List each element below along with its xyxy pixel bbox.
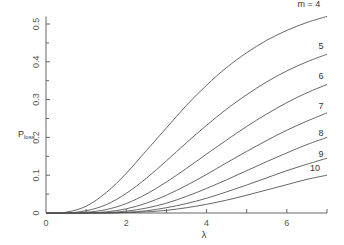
- x-tick-label: 4: [204, 218, 209, 228]
- x-tick-label: 2: [124, 218, 129, 228]
- curve-label: 7: [318, 101, 323, 111]
- curve-label: 5: [318, 41, 323, 51]
- line-chart: 00.10.20.30.40.50246 m = 45678910 Ploss …: [0, 0, 344, 245]
- curve-label: m = 4: [298, 0, 321, 9]
- y-tick-label: 0.5: [31, 18, 41, 31]
- x-tick-label: 6: [284, 218, 289, 228]
- curve-m-8: [46, 137, 327, 213]
- y-tick-label: 0.1: [31, 169, 41, 182]
- curve-label: 10: [310, 163, 320, 173]
- curve-label: 8: [318, 128, 323, 138]
- x-tick-label: 0: [43, 218, 48, 228]
- curve-labels: m = 45678910: [298, 0, 324, 173]
- y-tick-label: 0.3: [31, 93, 41, 106]
- curve-m-4: [46, 16, 327, 213]
- curve-m-10: [46, 175, 327, 213]
- curves: [46, 16, 327, 213]
- y-tick-label: 0: [31, 210, 41, 215]
- x-axis-title: λ: [202, 230, 207, 240]
- curve-m-6: [46, 84, 327, 213]
- axes: 00.10.20.30.40.50246: [31, 16, 327, 228]
- curve-label: 6: [318, 71, 323, 81]
- curve-m-5: [46, 54, 327, 213]
- y-axis-title: Ploss: [18, 129, 35, 140]
- curve-m-7: [46, 113, 327, 213]
- y-tick-label: 0.4: [31, 56, 41, 69]
- y-axis-title-sub: loss: [24, 134, 35, 140]
- curve-label: 9: [318, 149, 323, 159]
